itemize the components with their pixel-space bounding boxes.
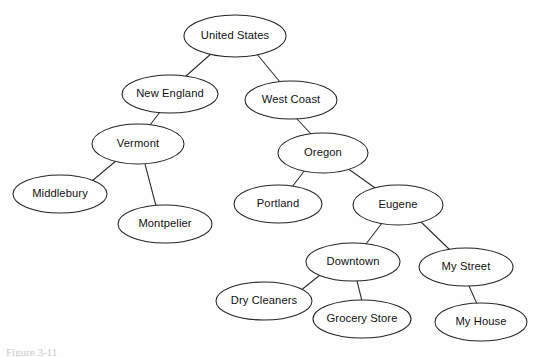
tree-node-dry-cleaners[interactable]: Dry Cleaners [216,282,312,320]
node-label-my-house: My House [455,315,506,327]
node-label-portland: Portland [257,197,299,209]
node-label-montpelier: Montpelier [138,217,191,229]
tree-edge-new-england-to-vermont [150,112,160,125]
tree-node-middlebury[interactable]: Middlebury [13,175,107,213]
tree-edge-my-street-to-my-house [469,286,477,304]
node-label-eugene: Eugene [378,198,417,210]
node-label-united-states: United States [201,29,270,41]
tree-node-my-house[interactable]: My House [435,303,527,341]
tree-edge-united-states-to-west-coast [256,53,280,82]
tree-edge-oregon-to-eugene [347,168,378,190]
tree-node-west-coast[interactable]: West Coast [245,81,337,119]
tree-diagram-canvas: United StatesNew EnglandWest CoastVermon… [0,0,538,357]
tree-node-vermont[interactable]: Vermont [92,124,184,164]
tree-edge-eugene-to-my-street [420,221,450,250]
tree-node-united-states[interactable]: United States [184,15,286,57]
node-label-vermont: Vermont [117,137,160,149]
node-label-new-england: New England [136,87,204,99]
tree-edge-vermont-to-montpelier [145,164,156,206]
tree-edge-west-coast-to-oregon [297,119,311,134]
nodes-layer: United StatesNew EnglandWest CoastVermon… [13,15,527,341]
node-label-grocery-store: Grocery Store [327,312,398,324]
tree-edge-united-states-to-new-england [186,53,212,76]
figure-caption: Figure 3-11 [6,346,57,357]
tree-node-grocery-store[interactable]: Grocery Store [313,300,411,338]
node-label-middlebury: Middlebury [32,187,88,199]
tree-edge-vermont-to-middlebury [92,160,117,181]
tree-edge-downtown-to-grocery-store [357,281,362,301]
tree-diagram: United StatesNew EnglandWest CoastVermon… [0,0,538,357]
tree-edge-downtown-to-dry-cleaners [300,275,320,291]
node-label-oregon: Oregon [304,146,342,158]
tree-node-oregon[interactable]: Oregon [278,133,368,173]
node-label-west-coast: West Coast [262,93,321,105]
node-label-my-street: My Street [442,260,492,272]
tree-edge-oregon-to-portland [292,170,305,187]
tree-node-portland[interactable]: Portland [234,185,322,223]
node-label-dry-cleaners: Dry Cleaners [231,294,298,306]
node-label-downtown: Downtown [326,255,379,267]
tree-node-eugene[interactable]: Eugene [353,185,443,225]
tree-node-new-england[interactable]: New England [122,75,218,113]
tree-node-montpelier[interactable]: Montpelier [118,205,212,243]
tree-node-downtown[interactable]: Downtown [306,243,400,281]
tree-edge-eugene-to-downtown [366,223,382,244]
tree-node-my-street[interactable]: My Street [419,248,513,286]
